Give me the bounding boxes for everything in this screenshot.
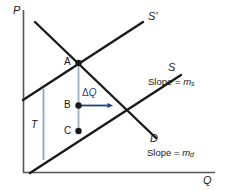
supply-slope-symbol: m — [183, 76, 191, 87]
supply-demand-figure: P Q S' S D Slope = ms Slope = md A B C T… — [0, 0, 225, 190]
x-axis-label: Q — [203, 175, 212, 186]
supply-slope-text: Slope = — [148, 76, 183, 87]
demand-slope-subscript: d — [190, 151, 194, 158]
point-a-label: A — [64, 57, 71, 67]
delta-q-arrowhead — [108, 103, 114, 108]
y-axis-label: P — [13, 5, 20, 16]
tax-label: T — [31, 119, 37, 130]
point-c-marker — [75, 128, 81, 134]
supply-slope-annotation: Slope = ms — [148, 77, 195, 87]
point-b-label: B — [64, 100, 71, 110]
supply-shifted-curve-label: S' — [148, 11, 157, 22]
point-c-label: C — [64, 126, 71, 136]
delta-q-symbol: Δ — [82, 87, 89, 98]
demand-slope-annotation: Slope = md — [147, 148, 194, 158]
delta-q-label: ΔQ — [82, 88, 96, 98]
delta-q-variable: Q — [89, 87, 97, 98]
demand-slope-symbol: m — [182, 147, 190, 158]
figure-canvas — [0, 0, 225, 190]
point-b-marker — [75, 102, 81, 108]
supply-curve-label: S — [168, 62, 175, 73]
supply-slope-subscript: s — [191, 80, 195, 87]
point-a-marker — [75, 60, 81, 66]
demand-slope-text: Slope = — [147, 147, 182, 158]
demand-curve-label: D — [150, 133, 158, 144]
